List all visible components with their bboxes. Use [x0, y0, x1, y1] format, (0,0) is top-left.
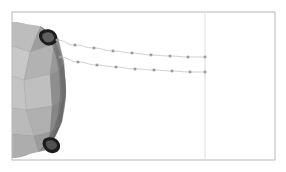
trajectory-point-marker: [131, 52, 134, 55]
trajectory-point-marker: [169, 55, 172, 58]
render-svg: [0, 0, 286, 172]
trajectory-point-marker: [189, 71, 192, 74]
trajectory-point-marker: [204, 56, 207, 59]
trajectory-point-marker: [134, 68, 137, 71]
trajectory-point-marker: [96, 64, 99, 67]
sphere-facet: [24, 74, 52, 110]
trajectory-point-marker: [59, 56, 62, 59]
trajectory-point-marker: [74, 44, 77, 47]
trajectory-point-marker: [93, 47, 96, 50]
trajectory-point-marker: [115, 66, 118, 69]
trajectory-point-marker: [150, 54, 153, 57]
trajectory-point-marker: [171, 70, 174, 73]
trajectory-point-marker: [112, 50, 115, 53]
trajectory-point-marker: [56, 39, 59, 42]
render-canvas: [0, 0, 286, 172]
trajectory-point-marker: [204, 71, 207, 74]
trajectory-point-marker: [153, 69, 156, 72]
trajectory-point-marker: [77, 61, 80, 64]
trajectory-point-marker: [187, 56, 190, 59]
